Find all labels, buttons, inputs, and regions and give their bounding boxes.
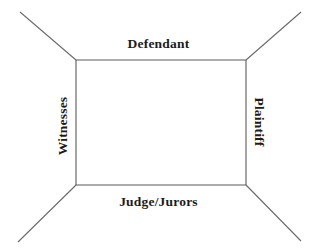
plaintiff-label: Plaintiff	[253, 88, 267, 156]
judge-jurors-label: Judge/Jurors	[0, 195, 317, 209]
bottom-right-diagonal	[246, 185, 301, 241]
witnesses-label: Witnesses	[56, 88, 70, 164]
top-right-diagonal	[246, 12, 301, 60]
top-left-diagonal	[20, 12, 76, 60]
defendant-label: Defendant	[0, 37, 317, 51]
courtroom-layout-diagram: Defendant Judge/Jurors Witnesses Plainti…	[0, 0, 317, 252]
bottom-left-diagonal	[18, 185, 76, 242]
